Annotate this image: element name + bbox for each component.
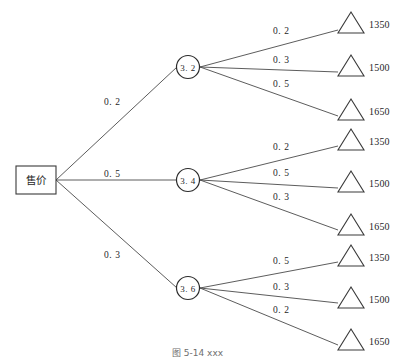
chance-node-1-label: 3. 2 — [180, 63, 196, 73]
figure-caption: 图 5-14 xxx — [0, 347, 395, 357]
outcome-4-probability: 0. 2 — [273, 142, 290, 152]
terminal-node-5[interactable] — [338, 171, 364, 192]
edge-root-to-node-3 — [56, 180, 177, 288]
terminal-node-2[interactable] — [338, 55, 364, 76]
root-branch-2-probability: 0. 5 — [104, 169, 121, 179]
edge-node-2-outcome-1 — [200, 146, 338, 180]
edge-node-2-outcome-2 — [200, 180, 338, 188]
payoff-1: 1350 — [369, 19, 390, 30]
outcome-1-probability: 0. 2 — [273, 26, 290, 36]
chance-node-2-label: 3. 4 — [180, 176, 196, 186]
payoff-5: 1500 — [369, 178, 390, 189]
payoff-3: 1650 — [369, 106, 390, 117]
edge-node-2-outcome-3 — [200, 180, 338, 230]
payoff-8: 1500 — [369, 294, 390, 305]
terminal-node-4[interactable] — [338, 129, 364, 150]
terminal-node-6[interactable] — [338, 214, 364, 235]
edge-root-to-node-1 — [56, 67, 177, 180]
terminal-node-1[interactable] — [338, 12, 364, 33]
outcome-9-probability: 0. 2 — [273, 305, 290, 315]
root-branch-1-probability: 0. 2 — [104, 97, 121, 107]
payoff-2: 1500 — [369, 62, 390, 73]
payoff-9: 1650 — [369, 336, 390, 347]
outcome-8-probability: 0. 3 — [273, 282, 290, 292]
decision-tree-canvas: 售价 3. 2 3. 4 3. 6 0. 2 0. 5 0. 3 0. 2 0.… — [0, 0, 395, 357]
decision-tree-figure: 售价 3. 2 3. 4 3. 6 0. 2 0. 5 0. 3 0. 2 0.… — [0, 0, 395, 357]
payoff-7: 1350 — [369, 252, 390, 263]
edge-node-3-outcome-3 — [200, 288, 338, 345]
edge-node-1-outcome-2 — [200, 67, 338, 72]
edge-node-1-outcome-1 — [200, 30, 338, 67]
terminal-node-3[interactable] — [338, 99, 364, 120]
terminal-node-7[interactable] — [338, 245, 364, 266]
edge-node-3-outcome-2 — [200, 288, 338, 303]
outcome-3-probability: 0. 5 — [273, 79, 290, 89]
payoff-4: 1350 — [369, 136, 390, 147]
payoff-6: 1650 — [369, 221, 390, 232]
edge-node-1-outcome-3 — [200, 67, 338, 116]
root-node-label: 售价 — [26, 174, 48, 186]
terminal-node-8[interactable] — [338, 287, 364, 308]
outcome-6-probability: 0. 3 — [273, 192, 290, 202]
chance-node-3-label: 3. 6 — [180, 284, 196, 294]
edge-node-3-outcome-1 — [200, 262, 338, 288]
outcome-5-probability: 0. 5 — [273, 168, 290, 178]
root-branch-3-probability: 0. 3 — [104, 250, 121, 260]
outcome-2-probability: 0. 3 — [273, 55, 290, 65]
outcome-7-probability: 0. 5 — [273, 256, 290, 266]
